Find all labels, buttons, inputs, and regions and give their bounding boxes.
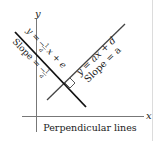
y-axis-label: y xyxy=(34,8,41,19)
perpendicular-lines-diagram: y x y = ax + d Slope = a y = − 1 a x + e… xyxy=(0,0,158,141)
line2-slope-prefix: Slope = xyxy=(11,36,43,69)
x-axis-label: x xyxy=(146,110,152,121)
diagram-caption: Perpendicular lines xyxy=(43,122,137,133)
